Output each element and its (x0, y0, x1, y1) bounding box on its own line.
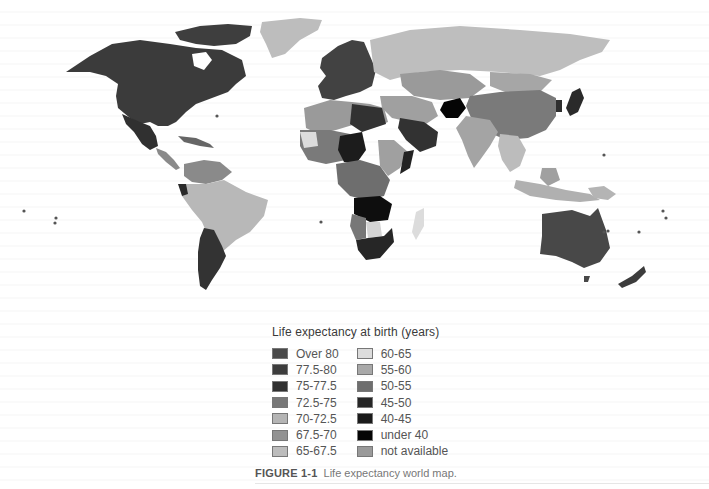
legend-label: 72.5-75 (296, 396, 337, 410)
region-south-america-north (184, 160, 232, 184)
region-saudi-arabia (398, 118, 438, 152)
legend-label: 40-45 (381, 412, 412, 426)
legend-swatch (357, 397, 373, 408)
region-central-america (156, 148, 180, 170)
legend-swatch (272, 446, 288, 457)
region-namibia (350, 214, 366, 240)
legend-label: not available (381, 444, 448, 458)
legend-swatch (272, 397, 288, 408)
legend-label: 65-67.5 (296, 444, 337, 458)
region-caribbean (178, 136, 214, 148)
legend-item: 67.5-70 (272, 428, 339, 441)
legend-swatch (272, 364, 288, 375)
legend-swatch (357, 364, 373, 375)
legend-item: not available (357, 445, 448, 458)
region-europe (318, 40, 376, 100)
region-borneo (540, 168, 560, 186)
legend-swatch (272, 413, 288, 424)
region-greenland (260, 18, 322, 58)
legend-swatch (272, 430, 288, 441)
legend-item: 55-60 (357, 363, 448, 376)
legend-swatch (357, 413, 373, 424)
region-india (456, 116, 498, 168)
region-australia (540, 208, 610, 268)
region-madagascar (412, 208, 424, 240)
legend-label: under 40 (381, 428, 428, 442)
legend-swatch (357, 348, 373, 359)
region-egypt-libya (350, 104, 386, 132)
figure-number: FIGURE 1-1 (255, 467, 318, 479)
legend-title: Life expectancy at birth (years) (272, 325, 532, 339)
region-new-zealand (618, 266, 646, 288)
region-afghanistan (440, 98, 466, 118)
legend-label: 75-77.5 (296, 379, 337, 393)
caption-divider (255, 483, 709, 484)
region-botswana (366, 222, 382, 238)
legend-item: 50-55 (357, 380, 448, 393)
map-legend: Life expectancy at birth (years) Over 80… (272, 325, 532, 458)
legend-item: 60-65 (357, 347, 448, 360)
region-brazil (182, 180, 268, 252)
legend-item: under 40 (357, 428, 448, 441)
legend-item: 72.5-75 (272, 396, 339, 409)
legend-item: 40-45 (357, 412, 448, 425)
legend-label: 70-72.5 (296, 412, 337, 426)
legend-item: Over 80 (272, 347, 339, 360)
region-japan (566, 88, 584, 116)
legend-column-right: 60-65 55-60 50-55 45-50 40-45 under 40 n… (357, 347, 448, 458)
legend-column-left: Over 80 77.5-80 75-77.5 72.5-75 70-72.5 … (272, 347, 339, 458)
region-indonesia (514, 180, 600, 202)
legend-label: 77.5-80 (296, 363, 337, 377)
legend-item: 77.5-80 (272, 363, 339, 376)
region-canada-islands (175, 24, 252, 46)
region-korea (556, 100, 562, 112)
legend-label: 45-50 (381, 396, 412, 410)
legend-label: 60-65 (381, 347, 412, 361)
legend-swatch (357, 430, 373, 441)
figure-caption: FIGURE 1-1Life expectancy world map. (255, 467, 457, 479)
region-russia (370, 26, 610, 80)
region-north-america (66, 40, 246, 126)
legend-swatch (272, 381, 288, 392)
legend-swatch (357, 381, 373, 392)
figure-caption-text: Life expectancy world map. (324, 467, 457, 479)
world-map (0, 0, 709, 290)
legend-swatch (357, 446, 373, 457)
legend-item: 70-72.5 (272, 412, 339, 425)
legend-label: Over 80 (296, 347, 339, 361)
legend-label: 50-55 (381, 379, 412, 393)
region-mongolia (490, 72, 552, 94)
legend-item: 45-50 (357, 396, 448, 409)
legend-label: 55-60 (381, 363, 412, 377)
region-central-asia (400, 70, 486, 100)
legend-item: 75-77.5 (272, 380, 339, 393)
legend-item: 65-67.5 (272, 445, 339, 458)
region-southeast-asia (498, 134, 526, 172)
legend-label: 67.5-70 (296, 428, 337, 442)
region-tasmania (584, 276, 590, 282)
legend-swatch (272, 348, 288, 359)
